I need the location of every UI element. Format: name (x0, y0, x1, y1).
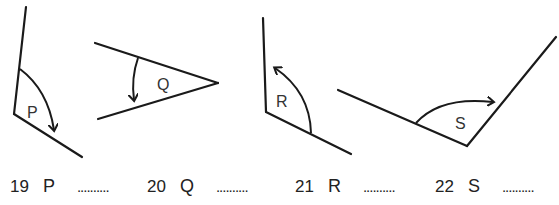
answer-20: 20Q.......... (147, 176, 248, 197)
angle-p: P (14, 7, 82, 157)
angle-s-label: S (455, 115, 466, 132)
question-number: 22 (435, 177, 454, 197)
answer-blank[interactable]: .......... (216, 178, 248, 195)
answer-21: 21R.......... (295, 176, 395, 197)
answer-blank[interactable]: .......... (502, 178, 534, 195)
angles-figure: P Q R S (0, 0, 559, 205)
question-number: 21 (295, 177, 314, 197)
angle-r: R (263, 18, 351, 154)
angle-letter: P (43, 176, 55, 197)
angle-p-label: P (27, 104, 38, 121)
answer-blank[interactable]: .......... (77, 178, 109, 195)
answer-blank[interactable]: .......... (363, 178, 395, 195)
angle-letter: S (468, 176, 480, 197)
question-number: 20 (147, 177, 166, 197)
answer-22: 22S.......... (435, 176, 534, 197)
angle-q-label: Q (157, 76, 169, 93)
angle-s: S (338, 37, 556, 146)
angle-letter: Q (180, 176, 194, 197)
angle-q: Q (95, 43, 218, 119)
angle-r-label: R (276, 93, 288, 110)
question-number: 19 (10, 177, 29, 197)
answer-row: 19P.......... 20Q.......... 21R.........… (0, 176, 559, 200)
answer-19: 19P.......... (10, 176, 109, 197)
angle-letter: R (328, 176, 341, 197)
